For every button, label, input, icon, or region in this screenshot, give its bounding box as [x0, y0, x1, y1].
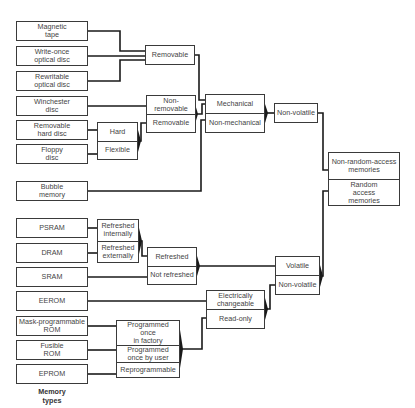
memory-type-label: DRAM [17, 244, 87, 262]
memory-type-label: Mask-programmable ROM [17, 317, 87, 335]
memory-type-mask-programmable-rom: Mask-programmable ROM [16, 316, 88, 336]
memory-type-bubble-memory: Bubble memory [16, 181, 88, 201]
category-label: Refreshed externally [98, 241, 138, 263]
category-label: Refreshed [148, 248, 196, 266]
category-label: Removable [147, 114, 195, 133]
diagram-caption: Memory types [16, 388, 88, 405]
category-refresh-source: Refreshed internally Refreshed externall… [97, 219, 139, 263]
memory-type-floppy-disc: Floppy disc [16, 144, 88, 164]
memory-type-eprom: EPROM [16, 364, 88, 384]
memory-type-winchester-disc: Winchester disc [16, 96, 88, 116]
category-disc-removability: Non- removable Removable [146, 95, 196, 133]
memory-type-label: Removable hard disc [17, 121, 87, 139]
memory-type-write-once-optical-disc: Write-once optical disc [16, 46, 88, 66]
memory-type-label: EPROM [17, 365, 87, 383]
memory-type-eerom: EEROM [16, 291, 88, 311]
memory-type-label: EEROM [17, 292, 87, 310]
memory-type-label: Rewritable optical disc [17, 72, 87, 90]
category-label: Removable [146, 46, 194, 64]
category-hard-flexible: Hard Flexible [97, 122, 138, 160]
category-access: Non-random-access memories Random access… [328, 152, 400, 206]
category-label: Programmed once in factory [117, 321, 179, 345]
category-label: Hard [98, 123, 137, 141]
category-label: Random access memories [329, 179, 399, 205]
category-label: Non-volatile [275, 104, 317, 122]
memory-type-label: Floppy disc [17, 145, 87, 163]
category-label: Refreshed internally [98, 220, 138, 241]
memory-type-rewritable-optical-disc: Rewritable optical disc [16, 71, 88, 91]
memory-type-label: SRAM [17, 268, 87, 286]
category-label: Reprogrammable [117, 362, 179, 377]
memory-type-label: Winchester disc [17, 97, 87, 115]
memory-type-psram: PSRAM [16, 218, 88, 238]
category-label: Non-mechanical [206, 113, 264, 132]
memory-type-label: Bubble memory [17, 182, 87, 200]
category-label: Programmed once by user [117, 345, 179, 362]
category-label: Non-random-access memories [329, 153, 399, 179]
category-removable-optical: Removable [145, 45, 195, 65]
memory-type-label: Magnetic tape [17, 22, 87, 40]
memory-type-sram: SRAM [16, 267, 88, 287]
memory-type-magnetic-tape: Magnetic tape [16, 21, 88, 41]
category-refresh: Refreshed Not refreshed [147, 247, 197, 285]
category-label: Not refreshed [148, 266, 196, 285]
category-label: Read-only [207, 309, 264, 328]
category-non-volatile-top: Non-volatile [274, 103, 318, 123]
category-volatility: Volatile Non-volatile [275, 256, 320, 295]
memory-type-removable-hard-disc: Removable hard disc [16, 120, 88, 140]
memory-type-label: Write-once optical disc [17, 47, 87, 65]
category-label: Flexible [98, 141, 137, 160]
category-label: Non- removable [147, 96, 195, 114]
category-label: Mechanical [206, 95, 264, 113]
category-label: Non-volatile [276, 275, 319, 294]
category-label: Volatile [276, 257, 319, 275]
memory-types-diagram: Magnetic tape Write-once optical disc Re… [0, 0, 415, 408]
memory-type-label: Fusible ROM [17, 341, 87, 359]
memory-type-dram: DRAM [16, 243, 88, 263]
memory-type-fusible-rom: Fusible ROM [16, 340, 88, 360]
category-programming: Programmed once in factory Programmed on… [116, 320, 180, 378]
memory-type-label: PSRAM [17, 219, 87, 237]
category-changeability: Electrically changeable Read-only [206, 290, 265, 329]
category-mechanical: Mechanical Non-mechanical [205, 94, 265, 133]
category-label: Electrically changeable [207, 291, 264, 309]
